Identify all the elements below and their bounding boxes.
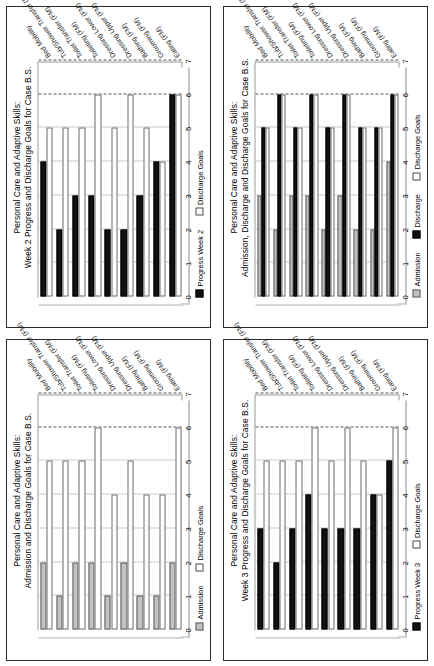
- bar: [143, 127, 149, 296]
- legend-label: Admission: [195, 585, 204, 619]
- category-label: Toilet Transfer (FM): [260, 338, 301, 392]
- bar: [46, 460, 52, 629]
- category-label: Grooming (FM): [131, 16, 164, 59]
- bar: [297, 127, 301, 296]
- bar: [94, 427, 100, 629]
- bar: [277, 94, 281, 296]
- category-label: Dressing Lower (FM): [73, 1, 116, 59]
- category-label: Grooming (FM): [131, 349, 164, 392]
- legend-swatch-icon: [195, 563, 203, 571]
- bar: [370, 229, 374, 296]
- bar: [325, 127, 329, 296]
- chart-title: Personal Care and Adaptive Skills:Week 2…: [11, 7, 33, 327]
- bar: [378, 127, 382, 296]
- bar: [370, 494, 376, 629]
- category-label: Toileting (FM): [70, 353, 100, 392]
- bar: [273, 229, 277, 296]
- bar: [386, 460, 392, 629]
- legend-label: Discharge Goals: [412, 114, 421, 169]
- bar: [257, 528, 263, 629]
- chart-legend: Progress Week 3Discharge Goals: [407, 390, 425, 630]
- bar: [358, 127, 362, 296]
- category-label: Dressing Upper (FM): [306, 1, 349, 59]
- bar: [40, 161, 46, 296]
- plot-area: [37, 394, 182, 630]
- bar: [273, 562, 279, 629]
- plot-depth-face: [38, 628, 183, 638]
- category-label: Eating (FM): [154, 358, 181, 392]
- chart-week2: Personal Care and Adaptive Skills:Week 2…: [7, 7, 210, 327]
- bar: [88, 195, 94, 296]
- bar: [344, 427, 350, 629]
- category-label: Dressing Upper (FM): [306, 334, 349, 392]
- bar: [362, 127, 366, 296]
- bar: [353, 528, 359, 629]
- bar: [120, 229, 126, 296]
- bar: [328, 460, 334, 629]
- bar: [159, 161, 165, 296]
- bar: [374, 127, 378, 296]
- bar: [111, 127, 117, 296]
- bar: [104, 595, 110, 629]
- legend-item: Discharge Goals: [195, 150, 204, 216]
- gridline-7: [38, 392, 181, 393]
- chart-legend: Progress Week 2Discharge Goals: [190, 57, 208, 297]
- legend-label: Discharge Goals: [195, 505, 204, 560]
- gridline-5: [255, 459, 398, 460]
- plot-depth-face: [255, 628, 400, 638]
- chart-title-line1: Personal Care and Adaptive Skills:: [228, 340, 239, 660]
- category-label: Bathing (FM): [119, 22, 148, 59]
- category-label: Eating (FM): [371, 25, 398, 59]
- category-label: Dressing Lower (FM): [73, 334, 116, 392]
- bar: [261, 127, 265, 296]
- bar: [153, 595, 159, 629]
- gridline-6: [255, 426, 398, 427]
- category-label: Bathing (FM): [336, 22, 365, 59]
- legend-item: Admission: [412, 252, 421, 297]
- chart-panel-admission-goals: Personal Care and Adaptive Skills:Admiss…: [6, 339, 211, 661]
- plot-area: [37, 61, 182, 297]
- bar: [321, 528, 327, 629]
- chart-panel-week2: Personal Care and Adaptive Skills:Week 2…: [6, 6, 211, 328]
- chart-title-line2: Admission and Discharge Goals for Case B…: [22, 340, 33, 660]
- bar: [293, 127, 297, 296]
- chart-admission-goals: Personal Care and Adaptive Skills:Admiss…: [7, 340, 210, 660]
- chart-admission-discharge: Personal Care and Adaptive Skills:Admiss…: [224, 7, 427, 327]
- gridline-7: [255, 392, 398, 393]
- figure-page: Personal Care and Adaptive Skills:Week 2…: [0, 0, 434, 666]
- category-label: Toilet Transfer (FM): [43, 338, 84, 392]
- bar: [342, 94, 346, 296]
- chart-panel-week3: Personal Care and Adaptive Skills:Week 3…: [223, 339, 428, 661]
- plot-depth-face: [255, 295, 400, 305]
- bar: [72, 562, 78, 629]
- chart-title-line1: Personal Care and Adaptive Skills:: [11, 340, 22, 660]
- legend-label: Discharge Goals: [195, 150, 204, 205]
- bar: [78, 460, 84, 629]
- legend-label: Discharge Goals: [412, 483, 421, 538]
- bar: [169, 562, 175, 629]
- chart-title: Personal Care and Adaptive Skills:Admiss…: [11, 340, 33, 660]
- legend-swatch-icon: [412, 172, 420, 180]
- bar: [321, 229, 325, 296]
- bar: [360, 460, 366, 629]
- legend-swatch-icon: [195, 622, 203, 630]
- bar: [305, 195, 309, 296]
- bar: [62, 460, 68, 629]
- chart-title-line1: Personal Care and Adaptive Skills:: [228, 7, 239, 327]
- bar: [72, 195, 78, 296]
- bar: [136, 595, 142, 629]
- plot-area: [254, 394, 399, 630]
- bar: [353, 229, 357, 296]
- bar: [279, 460, 285, 629]
- chart-title-line2: Week 3 Progress and Discharge Goals for …: [239, 340, 250, 660]
- bar: [295, 460, 301, 629]
- category-label: Toileting (FM): [70, 20, 100, 59]
- category-label: Dressing Lower (FM): [290, 334, 333, 392]
- category-label: Bathing (FM): [336, 355, 365, 392]
- legend-item: Progress Week 2: [195, 229, 204, 297]
- legend-swatch-icon: [412, 230, 420, 238]
- legend-swatch-icon: [412, 289, 420, 297]
- bar: [78, 127, 84, 296]
- category-label: Toileting (FM): [287, 20, 317, 59]
- bar: [153, 161, 159, 296]
